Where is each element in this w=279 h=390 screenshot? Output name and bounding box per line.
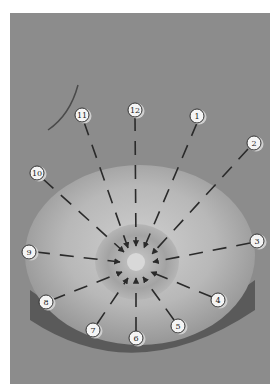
anatomical-photo bbox=[10, 13, 270, 384]
clock-label-9: 9 bbox=[22, 245, 37, 260]
photo-frame bbox=[10, 13, 270, 384]
clock-label-3: 3 bbox=[250, 234, 265, 249]
clock-label-4: 4 bbox=[211, 293, 226, 308]
clock-label-7: 7 bbox=[86, 323, 101, 338]
clock-label-8: 8 bbox=[39, 295, 54, 310]
clock-label-2: 2 bbox=[247, 136, 262, 151]
clock-label-1: 1 bbox=[190, 109, 205, 124]
clock-label-5: 5 bbox=[171, 319, 186, 334]
clock-label-10: 10 bbox=[30, 166, 45, 181]
clock-label-6: 6 bbox=[129, 331, 144, 346]
clock-label-12: 12 bbox=[128, 103, 143, 118]
clock-label-11: 11 bbox=[75, 108, 90, 123]
